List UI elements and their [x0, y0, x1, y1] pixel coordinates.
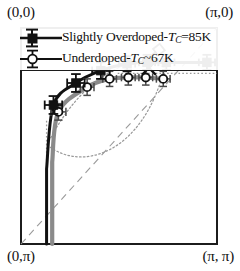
legend-label-underdoped-prefix: Underdoped-	[62, 50, 130, 65]
series-curve-overdoped	[47, 62, 207, 244]
figure-panel: (0,0) (π,0) (0,π) (π, π) Slightly Overdo…	[0, 0, 240, 271]
legend-entry-overdoped: Slightly Overdoped-TC=85K	[20, 27, 211, 49]
legend-marker-filled-square	[20, 27, 62, 49]
data-point-open-circle[interactable]	[159, 75, 167, 83]
legend-label-overdoped-prefix: Slightly Overdoped-	[62, 29, 168, 44]
underdoped-curve	[52, 77, 163, 244]
legend-swatch-underdoped-icon	[20, 48, 62, 70]
legend-marker-open-circle	[20, 48, 62, 70]
data-point-filled-square[interactable]	[72, 79, 80, 87]
legend-swatch-overdoped-icon	[20, 27, 62, 49]
data-point-open-circle[interactable]	[106, 75, 114, 83]
data-point-open-circle[interactable]	[124, 74, 132, 82]
series-curve-underdoped	[52, 77, 163, 244]
legend-label-overdoped-suffix: =85K	[181, 29, 211, 44]
legend-label-underdoped-suffix: ~67K	[144, 50, 174, 65]
series-points-underdoped	[51, 70, 170, 120]
legend: Slightly Overdoped-TC=85K Underdoped-TC~…	[20, 27, 218, 71]
legend-entry-underdoped: Underdoped-TC~67K	[20, 48, 173, 70]
overdoped-curve	[47, 62, 207, 244]
legend-label-underdoped: Underdoped-TC~67K	[62, 51, 173, 68]
legend-label-overdoped: Slightly Overdoped-TC=85K	[62, 30, 211, 47]
legend-label-underdoped-symbol: T	[130, 50, 137, 65]
data-point-filled-square[interactable]	[49, 101, 57, 109]
